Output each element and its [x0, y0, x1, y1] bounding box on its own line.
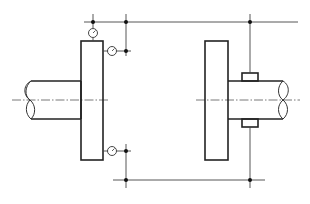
- bracket-bottom: [103, 127, 265, 188]
- clamp-bottom: [242, 119, 258, 127]
- gauge-face-bottom-icon: [108, 147, 117, 156]
- joint-node: [124, 20, 128, 24]
- joint-node: [248, 178, 252, 182]
- joint-node: [91, 20, 95, 24]
- clamp-top: [242, 73, 258, 81]
- left-flange: [81, 41, 103, 160]
- gauge-radial-top-icon: [89, 29, 98, 38]
- bracket-top: [84, 14, 298, 73]
- coupling-alignment-diagram: [0, 0, 310, 204]
- joint-node: [124, 178, 128, 182]
- joint-node: [124, 49, 128, 53]
- right-flange: [205, 41, 228, 160]
- joint-node: [248, 20, 252, 24]
- gauge-face-top-icon: [108, 47, 117, 56]
- joint-node: [124, 149, 128, 153]
